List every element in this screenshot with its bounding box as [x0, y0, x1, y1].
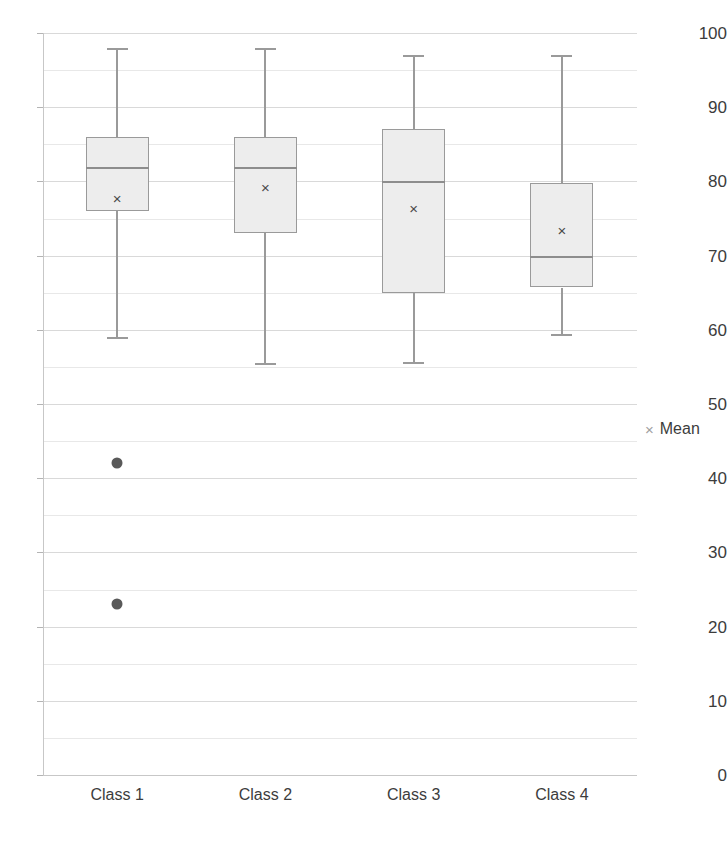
box-plot-3[interactable]: ×: [382, 0, 445, 848]
y-axis-tick-mark: [37, 627, 43, 628]
median-line: [530, 256, 593, 258]
outlier-point[interactable]: [112, 458, 123, 469]
upper-whisker-line: [561, 55, 563, 183]
y-axis-tick-label: 80: [691, 173, 727, 190]
y-axis-tick-label: 100: [691, 25, 727, 42]
y-axis-tick-mark: [37, 775, 43, 776]
y-axis-tick-label: 20: [691, 618, 727, 635]
lower-whisker-cap: [551, 334, 572, 336]
y-axis-tick-label: 0: [691, 767, 727, 784]
mean-marker-icon: ×: [409, 201, 418, 216]
upper-whisker-cap: [551, 55, 572, 57]
y-axis-tick-mark: [37, 330, 43, 331]
outlier-point[interactable]: [112, 599, 123, 610]
y-axis-tick-mark: [37, 181, 43, 182]
median-line: [382, 181, 445, 183]
upper-whisker-cap: [107, 48, 128, 50]
mean-marker-icon: ×: [113, 190, 122, 205]
y-axis-tick-mark: [37, 107, 43, 108]
box-plot-chart: 1009080706050403020100 Class 1Class 2Cla…: [0, 0, 727, 848]
legend-item-label: Mean: [660, 420, 700, 438]
y-axis-tick-label: 30: [691, 544, 727, 561]
box-plot-4[interactable]: ×: [530, 0, 593, 848]
lower-whisker-line: [264, 233, 266, 363]
y-axis-tick-mark: [37, 404, 43, 405]
y-axis-tick-mark: [37, 478, 43, 479]
y-axis-tick-mark: [37, 552, 43, 553]
y-axis-tick-mark: [37, 33, 43, 34]
y-axis-tick-label: 50: [691, 396, 727, 413]
upper-whisker-cap: [403, 55, 424, 57]
lower-whisker-cap: [255, 363, 276, 365]
y-axis-tick-mark: [37, 256, 43, 257]
upper-whisker-cap: [255, 48, 276, 50]
y-axis-tick-label: 60: [691, 321, 727, 338]
upper-whisker-line: [116, 48, 118, 137]
legend: × Mean: [645, 420, 700, 438]
y-axis-line: [43, 33, 44, 776]
lower-whisker-cap: [107, 337, 128, 339]
lower-whisker-line: [561, 288, 563, 334]
y-axis-tick-label: 10: [691, 692, 727, 709]
upper-whisker-line: [413, 55, 415, 129]
mean-marker-icon: ×: [261, 180, 270, 195]
box-plot-2[interactable]: ×: [234, 0, 297, 848]
mean-marker-icon: ×: [557, 222, 566, 237]
lower-whisker-line: [413, 293, 415, 362]
median-line: [86, 167, 149, 169]
mean-marker-icon: ×: [645, 422, 654, 437]
lower-whisker-line: [116, 211, 118, 337]
lower-whisker-cap: [403, 362, 424, 364]
upper-whisker-line: [264, 48, 266, 137]
y-axis-tick-label: 40: [691, 470, 727, 487]
y-axis-tick-label: 70: [691, 247, 727, 264]
y-axis-tick-mark: [37, 701, 43, 702]
box-plot-1[interactable]: ×: [86, 0, 149, 848]
median-line: [234, 167, 297, 169]
y-axis-tick-label: 90: [691, 99, 727, 116]
